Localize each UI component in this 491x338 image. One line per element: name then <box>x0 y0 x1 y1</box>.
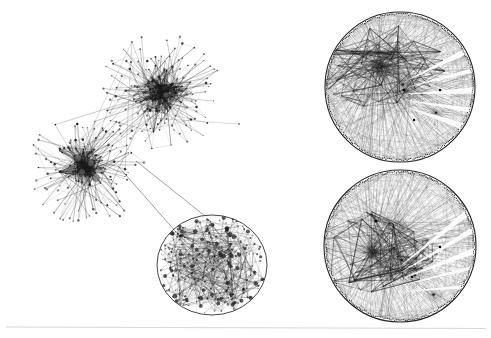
stray-node <box>238 123 240 125</box>
radial-highlight-node <box>413 119 415 121</box>
hub-node <box>88 160 94 166</box>
hub-node <box>150 84 155 89</box>
radial-highlight-node <box>402 88 405 91</box>
hub-node <box>163 92 169 98</box>
radial-highlight-node <box>375 220 378 223</box>
network-figure-canvas <box>0 0 491 338</box>
hub-node <box>75 155 82 162</box>
hub-node <box>79 169 85 175</box>
radial-highlight-node <box>439 89 442 92</box>
radial-highlight-node <box>439 246 442 249</box>
figure-root: Network visualization figure <box>0 0 491 338</box>
hub-node <box>67 167 72 172</box>
radial-highlight-node <box>411 276 413 278</box>
hub-node <box>92 174 99 181</box>
